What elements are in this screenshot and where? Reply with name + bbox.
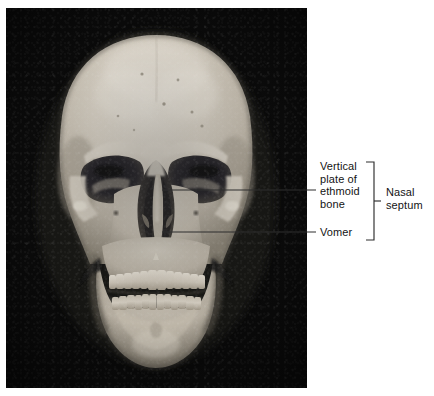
label-vomer: Vomer xyxy=(320,226,352,239)
label-nasal-septum: Nasal septum xyxy=(386,186,423,211)
nasal-septum-bracket xyxy=(366,162,374,240)
skull-photograph xyxy=(6,8,307,388)
skull-illustration xyxy=(6,8,307,388)
lower-teeth xyxy=(112,294,201,310)
anatomy-figure: Vertical plate of ethmoid bone Vomer Nas… xyxy=(0,0,434,396)
label-vertical-plate-of-ethmoid-bone: Vertical plate of ethmoid bone xyxy=(320,160,360,210)
